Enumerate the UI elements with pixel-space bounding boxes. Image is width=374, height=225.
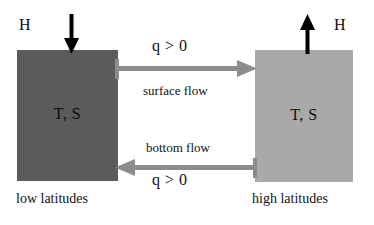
arrow-down-icon [62, 14, 82, 54]
bottom-flow-name-label: bottom flow [146, 141, 210, 154]
arrow-up-icon [298, 14, 318, 54]
low-latitude-box: T, S [17, 50, 118, 181]
high-latitude-caption: high latitudes [252, 192, 328, 206]
arrow-right-icon [115, 59, 257, 79]
low-latitude-caption: low latitudes [16, 192, 88, 206]
surface-flow-q-label: q > 0 [152, 38, 188, 54]
surface-flow-name-label: surface flow [143, 84, 208, 97]
high-latitude-box-label: T, S [255, 107, 353, 123]
right-forcing-label: H [334, 17, 346, 33]
high-latitude-box: T, S [255, 50, 353, 182]
diagram-canvas: T, S T, S low latitudes high latitudes H… [0, 0, 374, 225]
left-forcing-label: H [19, 17, 31, 33]
bottom-flow-q-label: q > 0 [152, 172, 188, 188]
low-latitude-box-label: T, S [17, 106, 118, 122]
